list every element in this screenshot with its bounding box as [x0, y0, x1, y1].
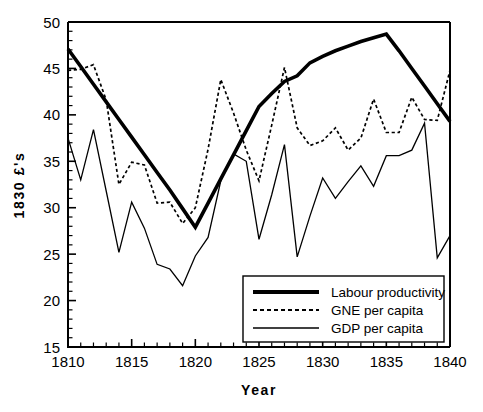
series-line-gne-per-capita: [68, 65, 450, 224]
y-tick-label: 15: [43, 339, 60, 356]
chart-figure: 1810181518201825183018351840 15202530354…: [0, 0, 483, 412]
legend-label-labour-productivity: Labour productivity: [331, 285, 445, 300]
y-tick-label: 30: [43, 199, 60, 216]
x-tick-label: 1815: [115, 353, 148, 370]
line-chart: 1810181518201825183018351840 15202530354…: [0, 0, 483, 412]
y-axis-title: 1830 £'s: [11, 152, 27, 219]
y-tick-label: 50: [43, 14, 60, 31]
y-tick-label: 45: [43, 60, 60, 77]
y-tick-label: 25: [43, 246, 60, 263]
x-tick-label: 1825: [242, 353, 275, 370]
data-series-group: [68, 34, 450, 286]
x-tick-label: 1830: [306, 353, 339, 370]
chart-legend: Labour productivity GNE per capita GDP p…: [243, 276, 445, 342]
series-line-gdp-per-capita: [68, 123, 450, 286]
series-line-labour-productivity: [68, 34, 450, 227]
x-axis-title: Year: [241, 382, 277, 398]
legend-label-gne-per-capita: GNE per capita: [331, 303, 424, 318]
legend-label-gdp-per-capita: GDP per capita: [331, 321, 424, 336]
x-tick-label: 1820: [179, 353, 212, 370]
y-axis-tick-labels: 1520253035404550: [43, 14, 60, 356]
y-tick-label: 20: [43, 292, 60, 309]
x-axis-tick-labels: 1810181518201825183018351840: [51, 353, 466, 370]
y-tick-label: 35: [43, 153, 60, 170]
y-tick-label: 40: [43, 106, 60, 123]
x-tick-label: 1810: [51, 353, 84, 370]
x-tick-label: 1835: [370, 353, 403, 370]
x-tick-label: 1840: [433, 353, 466, 370]
